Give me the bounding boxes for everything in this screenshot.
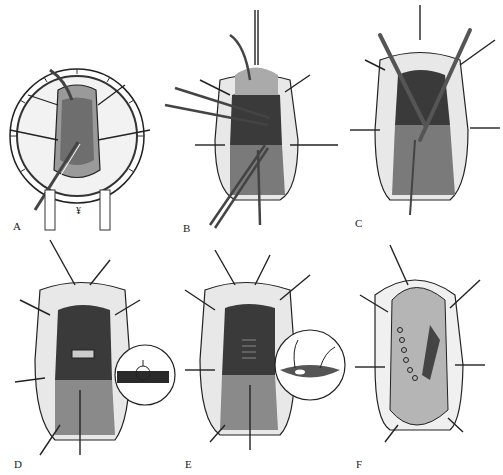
- panel-f: F: [330, 230, 503, 475]
- suture-repair-illustration: [0, 230, 180, 475]
- completed-closure-illustration: [330, 230, 503, 475]
- panel-c: C: [330, 0, 503, 240]
- panel-label-e: E: [185, 458, 192, 470]
- panel-label-f: F: [356, 458, 362, 470]
- panel-e: E: [170, 230, 350, 475]
- retractor-ring-illustration: ¥: [0, 0, 165, 240]
- crossed-instruments-illustration: [330, 0, 503, 240]
- panel-a: ¥ A: [0, 0, 165, 240]
- suture-closure-illustration: [170, 230, 350, 475]
- forceps-exposure-illustration: [160, 0, 340, 240]
- panel-d: D: [0, 230, 180, 475]
- panel-b: B: [160, 0, 340, 240]
- svg-text:¥: ¥: [76, 205, 81, 216]
- panel-label-d: D: [14, 458, 22, 470]
- panel-label-c: C: [355, 217, 362, 229]
